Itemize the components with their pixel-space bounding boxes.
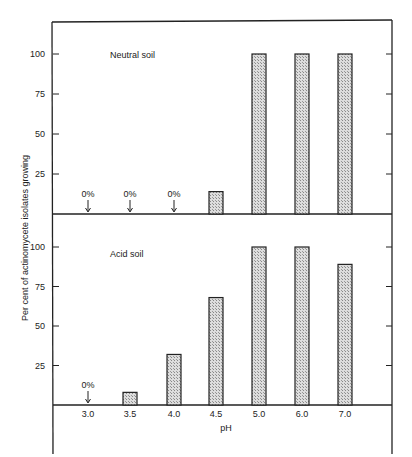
bar-7.0 [338, 264, 352, 405]
zero-annotation: 0% [167, 189, 180, 199]
bar-4.5 [209, 192, 223, 214]
y-tick-label: 75 [35, 89, 45, 99]
y-tick-label: 25 [35, 361, 45, 371]
bar-4.5 [209, 298, 223, 405]
x-tick-label: 3.0 [82, 409, 95, 419]
y-tick-label: 25 [35, 169, 45, 179]
y-tick-label: 50 [35, 129, 45, 139]
zero-annotation: 0% [81, 189, 94, 199]
y-axis-label: Per cent of actinomycete isolates growin… [20, 155, 30, 321]
panel-title: Neutral soil [110, 50, 155, 60]
x-tick-label: 4.0 [168, 409, 181, 419]
x-tick-label: 6.0 [296, 409, 309, 419]
bar-chart: Neutral soil2550751000%0%0%Acid soil2550… [0, 0, 412, 457]
panel-neutral-soil: Neutral soil2550751000%0%0% [30, 49, 392, 214]
y-tick-label: 75 [35, 282, 45, 292]
bar-6.0 [295, 247, 309, 405]
bar-5.0 [252, 54, 266, 214]
panel-acid-soil: Acid soil2550751000% [30, 242, 392, 405]
bar-5.0 [252, 247, 266, 405]
bar-4.0 [167, 354, 181, 405]
bar-7.0 [338, 54, 352, 214]
y-tick-label: 100 [30, 49, 45, 59]
panel-title: Acid soil [110, 249, 144, 259]
y-tick-label: 50 [35, 321, 45, 331]
bar-6.0 [295, 54, 309, 214]
x-tick-label: 7.0 [339, 409, 352, 419]
x-tick-label: 4.5 [210, 409, 223, 419]
zero-annotation: 0% [81, 380, 94, 390]
x-tick-label: 3.5 [124, 409, 137, 419]
y-tick-label: 100 [30, 242, 45, 252]
bar-3.5 [123, 392, 137, 405]
x-tick-label: 5.0 [253, 409, 266, 419]
x-axis-label: pH [220, 423, 232, 433]
zero-annotation: 0% [123, 189, 136, 199]
